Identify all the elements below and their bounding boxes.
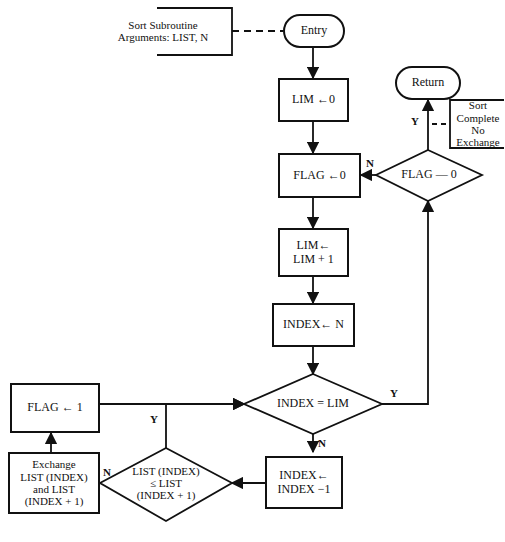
decision-index-eq-lim <box>244 374 382 434</box>
terminal-entry-label: Entry <box>301 24 328 37</box>
process-index-decrement[interactable]: INDEX← INDEX −1 <box>265 456 343 509</box>
terminal-return-label: Return <box>412 76 445 89</box>
edge-label-compare-no: N <box>103 466 111 478</box>
process-index-decrement-label: INDEX← INDEX −1 <box>277 469 330 496</box>
process-lim-increment[interactable]: LIM← LIM + 1 <box>278 228 349 277</box>
edge-index-eq-lim-yes-to-flag-eq-0 <box>382 201 428 404</box>
terminal-return[interactable]: Return <box>395 66 461 100</box>
process-flag-init-label: FLAG ←0 <box>293 169 345 182</box>
terminal-entry[interactable]: Entry <box>283 14 345 48</box>
process-index-init-label: INDEX← N <box>283 318 344 331</box>
edge-label-flag-eq-0-yes: Y <box>411 115 419 127</box>
process-flag-init[interactable]: FLAG ←0 <box>278 153 361 198</box>
process-exchange-label: Exchange LIST (INDEX) and LIST (INDEX + … <box>20 458 87 507</box>
process-flag-set[interactable]: FLAG ← 1 <box>10 383 100 433</box>
process-exchange[interactable]: Exchange LIST (INDEX) and LIST (INDEX + … <box>8 452 100 514</box>
annotation-sort-arguments: Sort Subroutine Arguments: LIST, N <box>96 12 230 50</box>
annotation-sort-arguments-text: Sort Subroutine Arguments: LIST, N <box>118 19 208 44</box>
edge-label-index-eq-lim-yes: Y <box>390 387 398 399</box>
edge-label-index-eq-lim-no: N <box>318 437 326 449</box>
decision-flag-eq-0 <box>376 150 482 201</box>
process-lim-init[interactable]: LIM ←0 <box>278 78 349 122</box>
process-index-init[interactable]: INDEX← N <box>272 303 355 347</box>
annotation-sort-complete: Sort Complete No Exchange <box>452 100 504 148</box>
process-lim-increment-label: LIM← LIM + 1 <box>293 239 334 266</box>
edge-compare-yes-to-index-eq-lim <box>166 404 244 448</box>
flowchart-canvas: Sort Subroutine Arguments: LIST, N Entry… <box>0 0 505 542</box>
decision-compare <box>100 448 232 521</box>
process-flag-set-label: FLAG ← 1 <box>27 401 82 414</box>
process-lim-init-label: LIM ←0 <box>292 93 335 106</box>
edge-label-flag-eq-0-no: N <box>366 157 374 169</box>
annotation-sort-complete-text: Sort Complete No Exchange <box>452 99 504 148</box>
edge-label-compare-yes: Y <box>150 413 158 425</box>
